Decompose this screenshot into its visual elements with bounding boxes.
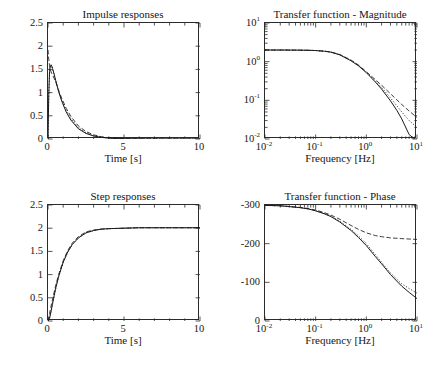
y-tick-label: 1.5: [1, 63, 43, 74]
y-tick-label: 2.5: [1, 17, 43, 28]
y-tick-label: -300: [218, 199, 260, 210]
series-model-3: [48, 66, 200, 139]
x-axis-label: Time [s]: [47, 152, 199, 164]
subplot-bottom-right: Transfer function - PhaseFrequency [Hz]0…: [0, 0, 434, 366]
subplot-title: Transfer function - Magnitude: [264, 8, 416, 20]
y-tick-label: 101: [218, 17, 260, 28]
x-tick-label: 10: [194, 323, 205, 334]
x-tick-label: 5: [120, 141, 125, 152]
y-tick-label: 2: [1, 40, 43, 51]
y-tick-label: -200: [218, 237, 260, 248]
plot-canvas: [48, 205, 200, 321]
x-tick-label: 101: [409, 323, 423, 334]
tick-marks: [265, 23, 417, 139]
x-tick-label: 0: [44, 323, 49, 334]
series-model-3: [48, 228, 200, 321]
y-tick-label: 2.5: [1, 199, 43, 210]
series-model-2: [48, 228, 200, 321]
plot-frame: [264, 22, 416, 138]
x-tick-label: 100: [358, 323, 372, 334]
plot-frame: [47, 22, 199, 138]
subplot-bottom-left: Step responsesTime [s]00.511.522.50510: [0, 0, 434, 366]
series-model-1: [265, 205, 417, 298]
y-tick-label: 2: [1, 222, 43, 233]
subplot-title: Transfer function - Phase: [264, 190, 416, 202]
x-axis-label: Frequency [Hz]: [264, 152, 416, 164]
x-tick-label: 10-1: [306, 141, 322, 152]
y-tick-label: 0: [218, 315, 260, 326]
x-tick-label: 0: [44, 141, 49, 152]
figure-canvas: Impulse responsesTime [s]00.511.522.5051…: [0, 0, 434, 366]
y-tick-label: 0.5: [1, 291, 43, 302]
y-tick-label: 10-2: [218, 133, 260, 144]
series-model-1: [48, 65, 200, 139]
x-axis-label: Frequency [Hz]: [264, 334, 416, 346]
y-tick-label: 1: [1, 268, 43, 279]
subplot-title: Impulse responses: [47, 8, 199, 20]
data-series-group: [48, 228, 200, 321]
y-tick-label: 1.5: [1, 245, 43, 256]
y-tick-label: 100: [218, 55, 260, 66]
y-tick-label: 0: [1, 133, 43, 144]
plot-canvas: [265, 23, 417, 139]
y-tick-label: 10-1: [218, 94, 260, 105]
tick-marks: [48, 23, 200, 139]
x-tick-label: 10-1: [306, 323, 322, 334]
subplot-top-left: Impulse responsesTime [s]00.511.522.5051…: [0, 0, 434, 366]
y-tick-label: -100: [218, 276, 260, 287]
series-model-3: [265, 50, 417, 127]
series-model-1: [265, 50, 417, 141]
x-tick-label: 10-2: [256, 141, 272, 152]
tick-marks: [48, 205, 200, 321]
plot-canvas: [265, 205, 417, 321]
series-model-2: [265, 205, 417, 239]
x-axis-label: Time [s]: [47, 334, 199, 346]
series-model-1: [48, 228, 200, 321]
series-model-2: [265, 50, 417, 117]
series-model-2: [48, 50, 200, 139]
y-tick-label: 0.5: [1, 109, 43, 120]
x-tick-label: 100: [358, 141, 372, 152]
data-series-group: [48, 50, 200, 139]
tick-marks: [265, 205, 417, 321]
x-tick-label: 101: [409, 141, 423, 152]
x-tick-label: 5: [120, 323, 125, 334]
x-tick-label: 10: [194, 141, 205, 152]
data-series-group: [265, 205, 417, 298]
plot-frame: [264, 204, 416, 320]
subplot-title: Step responses: [47, 190, 199, 202]
subplot-top-right: Transfer function - MagnitudeFrequency […: [0, 0, 434, 366]
y-tick-label: 1: [1, 86, 43, 97]
x-tick-label: 10-2: [256, 323, 272, 334]
plot-canvas: [48, 23, 200, 139]
series-model-3: [265, 205, 417, 293]
plot-frame: [47, 204, 199, 320]
data-series-group: [265, 50, 417, 141]
y-tick-label: 0: [1, 315, 43, 326]
